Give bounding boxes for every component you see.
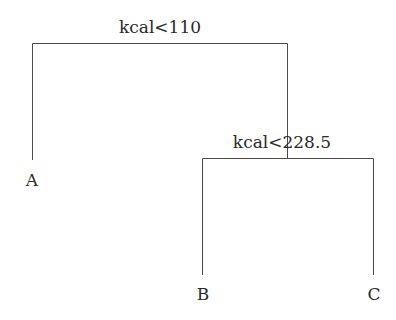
leaf-b-label: B <box>197 285 210 303</box>
tree-edges <box>0 0 396 320</box>
leaf-c-label: C <box>367 285 380 303</box>
root-split-label: kcal<110 <box>119 18 201 36</box>
leaf-a-label: A <box>26 171 38 189</box>
node2-split-label: kcal<228.5 <box>233 133 331 151</box>
